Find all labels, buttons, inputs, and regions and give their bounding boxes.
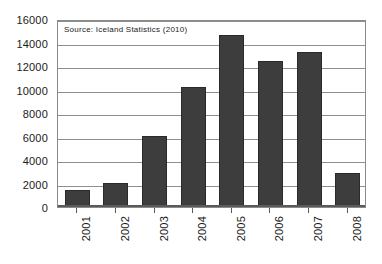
y-tick-label: 14000 [16,38,48,49]
bar-2004 [181,87,206,207]
bar-chart: 0200040006000800010000120001400016000 So… [0,0,382,264]
y-tick-label: 0 [42,203,48,214]
x-tick-label: 2007 [313,216,324,241]
axis-baseline [58,205,365,207]
y-tick-label: 10000 [16,85,48,96]
bar-2007 [297,52,322,207]
x-tick-label: 2004 [197,216,208,241]
plot-area: Source: Iceland Statistics (2010) [57,20,366,208]
x-tick-label: 2008 [352,216,363,241]
x-tick [76,208,77,213]
x-tick [347,208,348,213]
x-tick-label: 2002 [120,216,131,241]
y-tick-label: 12000 [16,62,48,73]
bar-2008 [335,173,360,207]
source-annotation: Source: Iceland Statistics (2010) [64,25,187,35]
x-tick [192,208,193,213]
y-tick-label: 8000 [23,109,48,120]
x-tick [231,208,232,213]
y-axis: 0200040006000800010000120001400016000 [0,20,52,208]
bars-layer [58,21,365,207]
y-tick-label: 4000 [23,156,48,167]
x-tick-label: 2003 [159,216,170,241]
bar-2002 [103,183,128,207]
x-tick [308,208,309,213]
x-tick-label: 2005 [236,216,247,241]
x-axis: 20012002200320042005200620072008 [57,208,366,264]
y-tick-label: 16000 [16,15,48,26]
x-tick [115,208,116,213]
y-tick-label: 6000 [23,132,48,143]
x-tick-label: 2006 [274,216,285,241]
x-tick-label: 2001 [81,216,92,241]
bar-2003 [142,136,167,207]
bar-2006 [258,61,283,207]
x-tick [154,208,155,213]
y-tick-label: 2000 [23,179,48,190]
x-tick [269,208,270,213]
bar-2005 [219,35,244,207]
